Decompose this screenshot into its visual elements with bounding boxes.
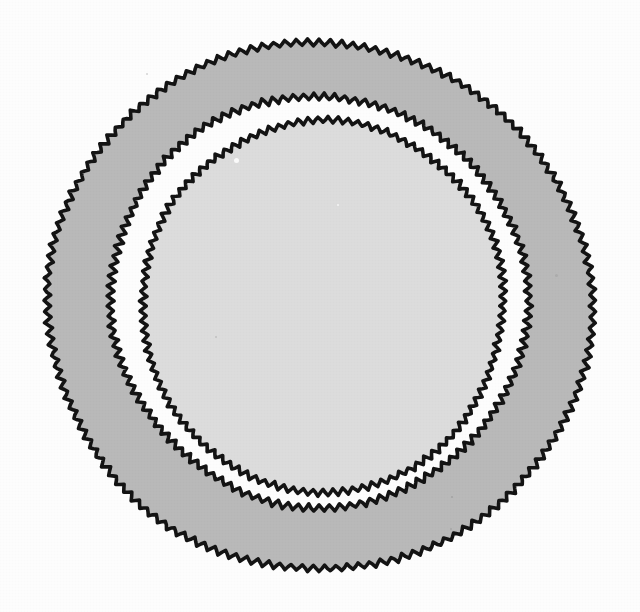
concentric-rings-figure: Concentric wobbly rings (plate sketch) O… bbox=[0, 0, 640, 612]
figure-canvas: Concentric wobbly rings (plate sketch) O… bbox=[0, 0, 640, 612]
